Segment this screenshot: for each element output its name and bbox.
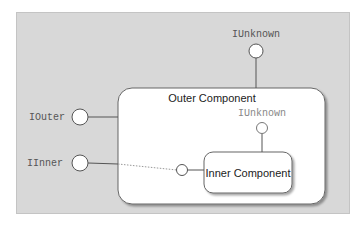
outer-component-label: Outer Component [168,92,255,104]
inner-iunknown-label: IUnknown [238,108,286,119]
lollipop-icon [249,44,263,58]
lollipop-icon [72,155,88,171]
outer-iunknown-label: IUnknown [232,29,280,40]
lollipop-icon [177,165,188,176]
inner-component: Inner Component [204,152,292,193]
lollipop-icon [72,109,88,125]
iinner-label: IInner [27,158,63,169]
iouter-label: IOuter [29,112,65,123]
com-aggregation-diagram: Outer Component IUnknown IOuter IInner I… [0,0,363,227]
outer-iunknown-interface: IUnknown [232,29,280,88]
lollipop-icon [257,123,268,134]
iouter-interface: IOuter [29,109,118,125]
inner-component-label: Inner Component [206,167,291,179]
